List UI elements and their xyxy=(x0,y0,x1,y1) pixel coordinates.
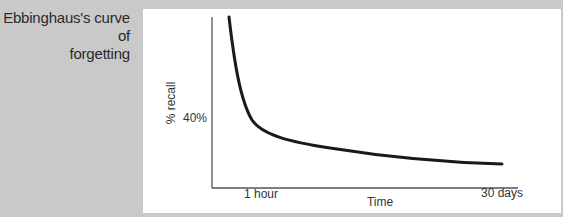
y-tick-label-40: 40% xyxy=(183,111,207,125)
y-axis-label: % recall xyxy=(164,82,178,125)
x-tick-label-1-hour: 1 hour xyxy=(244,187,278,201)
recall-curve xyxy=(229,17,502,164)
forgetting-curve-chart: % recall 40% 1 hour 30 days Time xyxy=(0,0,563,217)
x-tick-label-30-days: 30 days xyxy=(481,186,523,200)
x-axis-label: Time xyxy=(367,195,394,209)
